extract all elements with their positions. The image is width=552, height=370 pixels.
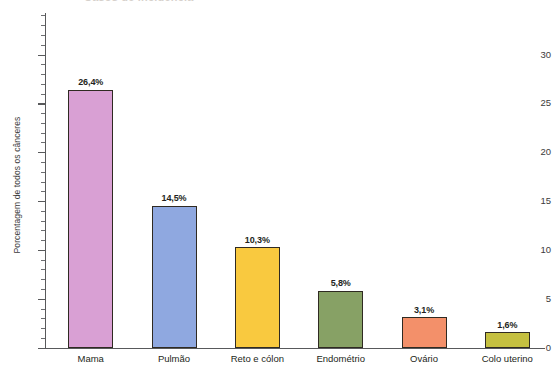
y-tick-minor — [41, 269, 46, 270]
y-tick-minor — [41, 162, 46, 163]
y-axis-line — [45, 13, 46, 349]
y-tick-minor — [41, 240, 46, 241]
x-tick-label: Ovário — [379, 353, 469, 364]
y-tick-label: 25 — [517, 97, 551, 108]
y-tick-minor — [41, 328, 46, 329]
x-tick-label: Colo uterino — [462, 353, 552, 364]
y-tick-minor — [41, 289, 46, 290]
y-tick-label: 20 — [517, 146, 551, 157]
y-tick-minor — [41, 84, 46, 85]
x-tick-label: Reto e cólon — [212, 353, 302, 364]
y-tick-minor — [41, 221, 46, 222]
y-tick-major — [38, 201, 45, 202]
y-tick-major — [38, 250, 45, 251]
y-tick-minor — [41, 45, 46, 46]
y-tick-minor — [41, 35, 46, 36]
y-tick-minor — [41, 74, 46, 75]
bar — [318, 291, 363, 348]
y-tick-label: 15 — [517, 195, 551, 206]
y-tick-minor — [41, 64, 46, 65]
x-tick-label: Mama — [46, 353, 136, 364]
chart-title: Casos de incidência — [84, 0, 194, 3]
bar-value-label: 1,6% — [477, 320, 537, 330]
y-tick-minor — [41, 230, 46, 231]
y-tick-minor — [41, 113, 46, 114]
y-tick-minor — [41, 25, 46, 26]
bar-value-label: 26,4% — [61, 77, 121, 87]
y-tick-minor — [41, 182, 46, 183]
bar — [402, 317, 447, 347]
y-tick-minor — [41, 133, 46, 134]
y-tick-minor — [41, 318, 46, 319]
bar-value-label: 10,3% — [227, 235, 287, 245]
y-tick-major — [38, 103, 45, 104]
y-tick-label: 30 — [517, 49, 551, 60]
y-tick-minor — [41, 260, 46, 261]
y-tick-minor — [41, 191, 46, 192]
y-tick-label: 5 — [517, 293, 551, 304]
y-tick-label: 10 — [517, 244, 551, 255]
y-tick-minor — [41, 211, 46, 212]
y-tick-minor — [41, 142, 46, 143]
bar — [485, 332, 530, 348]
y-tick-minor — [41, 172, 46, 173]
y-tick-minor — [41, 123, 46, 124]
bar — [235, 247, 280, 348]
y-tick-minor — [41, 309, 46, 310]
bar-value-label: 5,8% — [311, 278, 371, 288]
x-axis-line — [45, 348, 545, 350]
y-tick-major — [38, 55, 45, 56]
bar — [152, 206, 197, 348]
x-tick-label: Endométrio — [296, 353, 386, 364]
y-tick-minor — [41, 338, 46, 339]
y-tick-minor — [41, 279, 46, 280]
y-tick-major — [38, 152, 45, 153]
y-tick-major — [38, 299, 45, 300]
x-tick-label: Pulmão — [129, 353, 219, 364]
y-tick-minor — [41, 15, 46, 16]
y-tick-minor — [41, 94, 46, 95]
bar-value-label: 14,5% — [144, 193, 204, 203]
y-tick-major — [38, 348, 45, 349]
bar-value-label: 3,1% — [394, 305, 454, 315]
y-axis-label: Porcentagem de todos os cânceres — [12, 100, 22, 270]
bar — [68, 90, 113, 348]
